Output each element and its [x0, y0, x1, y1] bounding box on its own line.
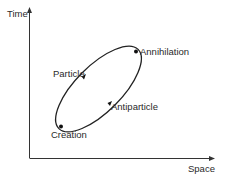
diagram-canvas	[0, 0, 241, 175]
time-axis-label: Time	[7, 9, 28, 19]
annihilation-label: Annihilation	[140, 47, 189, 57]
creation-label: Creation	[51, 130, 87, 140]
particle-label: Particle	[53, 69, 85, 79]
space-axis-label: Space	[188, 164, 215, 174]
creation-point-icon	[59, 125, 63, 129]
space-axis-arrow-icon	[209, 156, 215, 161]
antiparticle-label: Antiparticle	[111, 102, 158, 112]
annihilation-point-icon	[134, 50, 138, 54]
